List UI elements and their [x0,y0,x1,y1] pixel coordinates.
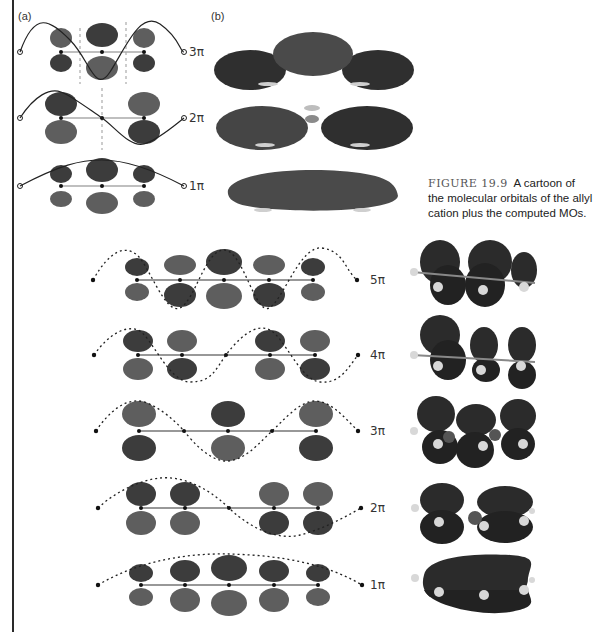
pentadienyl-computed-2pi [411,483,535,544]
pentadienyl-5pi-diagram [91,248,359,309]
allyl-3pi-diagram [18,21,187,84]
allyl-level-2pi: 2π [189,111,204,125]
pentadienyl-level-3pi: 3π [370,424,385,438]
pentadienyl-computed-5pi [410,240,537,307]
figure-number: FIGURE 19.9 [428,177,508,190]
pentadienyl-level-1pi: 1π [370,578,385,592]
allyl-mo-cartoons [0,0,594,634]
allyl-computed-3pi [214,32,414,90]
allyl-level-3pi: 3π [189,45,204,59]
allyl-computed-2pi [216,105,413,150]
pentadienyl-level-4pi: 4π [370,348,385,362]
pentadienyl-2pi-diagram [96,478,363,537]
pentadienyl-computed-4pi [410,315,536,389]
pentadienyl-1pi-diagram [96,554,364,616]
pentadienyl-level-5pi: 5π [370,273,385,287]
pentadienyl-computed-1pi [411,554,535,613]
pentadienyl-computed-3pi [410,396,536,468]
pentadienyl-level-2pi: 2π [370,501,385,515]
allyl-computed-1pi [228,170,398,212]
allyl-level-1pi: 1π [189,179,204,193]
pentadienyl-4pi-diagram [92,328,360,382]
pentadienyl-3pi-diagram [94,401,360,461]
allyl-1pi-diagram [18,158,187,214]
allyl-2pi-diagram [18,88,187,150]
figure-caption: FIGURE 19.9 A cartoon of the molecular o… [428,176,594,221]
